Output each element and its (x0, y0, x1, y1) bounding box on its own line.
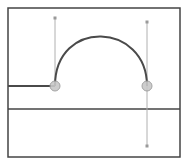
left-anchor[interactable] (50, 81, 60, 91)
right-handle-bottom-knob[interactable] (146, 145, 149, 148)
bezier-arc[interactable] (55, 36, 147, 86)
bezier-diagram (0, 0, 186, 162)
frame-border (8, 8, 180, 157)
left-handle-top-knob[interactable] (54, 17, 57, 20)
right-handle-top-knob[interactable] (146, 21, 149, 24)
right-anchor[interactable] (142, 81, 152, 91)
